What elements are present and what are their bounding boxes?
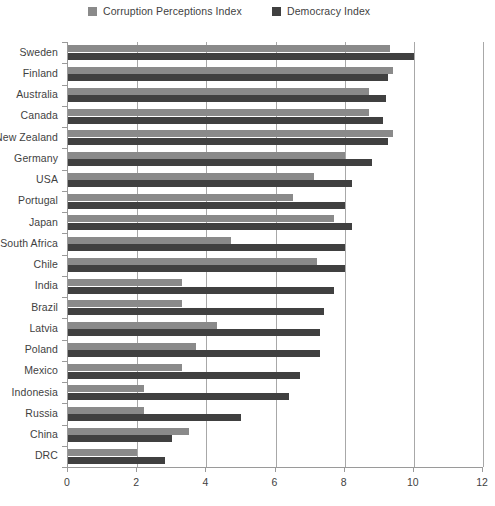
bar-chile-cpi	[68, 258, 317, 265]
y-axis-label-india: India	[35, 279, 58, 291]
bar-china-democracy	[68, 435, 172, 442]
x-axis-tick	[344, 467, 345, 472]
bar-portugal-cpi	[68, 194, 293, 201]
corruption-democracy-bar-chart: Corruption Perceptions IndexDemocracy In…	[0, 0, 495, 506]
legend-label: Democracy Index	[287, 5, 370, 17]
y-axis-label-brazil: Brazil	[31, 301, 58, 313]
y-axis-label-chile: Chile	[34, 258, 58, 270]
bar-sweden-democracy	[68, 53, 414, 60]
bar-germany-democracy	[68, 159, 372, 166]
x-axis-tick	[275, 467, 276, 472]
y-axis-tick	[62, 127, 67, 128]
x-axis-label: 12	[476, 476, 488, 488]
bar-drc-democracy	[68, 457, 165, 464]
bar-india-democracy	[68, 287, 334, 294]
x-axis-tick	[413, 467, 414, 472]
y-axis-tick	[62, 425, 67, 426]
y-axis-tick	[62, 446, 67, 447]
gridline	[483, 42, 484, 467]
x-axis-label: 2	[133, 476, 139, 488]
y-axis-tick	[62, 63, 67, 64]
bar-japan-democracy	[68, 223, 352, 230]
y-axis-label-usa: USA	[36, 173, 58, 185]
y-axis-label-canada: Canada	[21, 109, 58, 121]
y-axis-tick	[62, 212, 67, 213]
y-axis-tick	[62, 255, 67, 256]
y-axis-tick	[62, 403, 67, 404]
y-axis-labels: SwedenFinlandAustraliaCanadaNew ZealandG…	[0, 42, 64, 467]
bar-russia-democracy	[68, 414, 241, 421]
bar-sweden-cpi	[68, 45, 390, 52]
bar-canada-cpi	[68, 109, 369, 116]
bar-drc-cpi	[68, 449, 137, 456]
x-axis-tick	[67, 467, 68, 472]
legend-entry-democracy-index: Democracy Index	[272, 2, 370, 20]
y-axis-label-mexico: Mexico	[24, 364, 58, 376]
bar-latvia-cpi	[68, 322, 217, 329]
x-axis-label: 0	[64, 476, 70, 488]
y-axis-tick	[62, 382, 67, 383]
y-axis-tick	[62, 42, 67, 43]
x-axis-label: 4	[202, 476, 208, 488]
bars-layer	[68, 42, 482, 467]
bar-germany-cpi	[68, 152, 345, 159]
y-axis-tick	[62, 106, 67, 107]
y-axis-tick	[62, 318, 67, 319]
y-axis-label-latvia: Latvia	[29, 322, 58, 334]
bar-south-africa-democracy	[68, 244, 345, 251]
bar-usa-cpi	[68, 173, 314, 180]
bar-south-africa-cpi	[68, 237, 231, 244]
bar-canada-democracy	[68, 117, 383, 124]
y-axis-label-japan: Japan	[29, 216, 58, 228]
bar-brazil-democracy	[68, 308, 324, 315]
y-axis-tick	[62, 191, 67, 192]
x-axis-tick	[482, 467, 483, 472]
legend-swatch-icon	[88, 7, 97, 16]
bar-usa-democracy	[68, 180, 352, 187]
x-axis-tick	[205, 467, 206, 472]
bar-poland-cpi	[68, 343, 196, 350]
bar-indonesia-democracy	[68, 393, 289, 400]
bar-chile-democracy	[68, 265, 345, 272]
y-axis-label-finland: Finland	[23, 67, 58, 79]
legend-label: Corruption Perceptions Index	[103, 5, 242, 17]
x-axis-label: 10	[407, 476, 419, 488]
bar-brazil-cpi	[68, 300, 182, 307]
y-axis-tick	[62, 85, 67, 86]
x-axis-label: 8	[341, 476, 347, 488]
y-axis-label-south-africa: South Africa	[0, 237, 58, 249]
bar-new-zealand-democracy	[68, 138, 388, 145]
y-axis-tick	[62, 170, 67, 171]
y-axis-label-china: China	[30, 428, 58, 440]
y-axis-label-poland: Poland	[25, 343, 58, 355]
chart-legend: Corruption Perceptions IndexDemocracy In…	[0, 0, 495, 26]
bar-australia-cpi	[68, 88, 369, 95]
y-axis-label-australia: Australia	[16, 88, 58, 100]
bar-finland-democracy	[68, 74, 388, 81]
bar-poland-democracy	[68, 350, 320, 357]
x-axis-tick	[136, 467, 137, 472]
y-axis-tick	[62, 297, 67, 298]
bar-new-zealand-cpi	[68, 130, 393, 137]
bar-mexico-cpi	[68, 364, 182, 371]
bar-indonesia-cpi	[68, 385, 144, 392]
bar-latvia-democracy	[68, 329, 320, 336]
bar-mexico-democracy	[68, 372, 300, 379]
y-axis-tick	[62, 276, 67, 277]
bar-china-cpi	[68, 428, 189, 435]
y-axis-label-drc: DRC	[35, 449, 58, 461]
y-axis-tick	[62, 340, 67, 341]
y-axis-tick	[62, 148, 67, 149]
bar-finland-cpi	[68, 67, 393, 74]
bar-australia-democracy	[68, 95, 386, 102]
y-axis-label-russia: Russia	[25, 407, 58, 419]
legend-swatch-icon	[272, 7, 281, 16]
legend-entry-corruption-perceptions-index: Corruption Perceptions Index	[88, 2, 242, 20]
bar-india-cpi	[68, 279, 182, 286]
y-axis-label-portugal: Portugal	[18, 194, 58, 206]
x-axis-label: 6	[272, 476, 278, 488]
bar-portugal-democracy	[68, 202, 345, 209]
bar-japan-cpi	[68, 215, 334, 222]
y-axis-label-germany: Germany	[14, 152, 58, 164]
y-axis-label-indonesia: Indonesia	[12, 386, 58, 398]
